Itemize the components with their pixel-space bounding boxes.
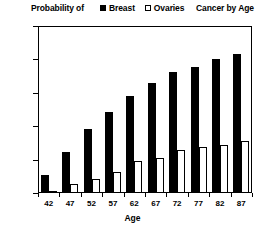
legend-label-breast: Breast [109, 3, 135, 13]
chart-legend: Breast Ovaries [100, 3, 184, 13]
x-tick-mark [124, 193, 125, 197]
bar-ovaries-77 [199, 147, 207, 193]
x-tick-mark [59, 193, 60, 197]
bar-ovaries-52 [92, 179, 100, 193]
x-tick-mark [102, 193, 103, 197]
chart-title-right: Cancer by Age [196, 3, 254, 13]
x-tick-label: 67 [145, 199, 167, 208]
bar-ovaries-62 [134, 161, 142, 193]
x-tick-label: 52 [81, 199, 103, 208]
x-tick-mark [252, 193, 253, 197]
bar-ovaries-42 [49, 191, 57, 193]
bar-ovaries-57 [113, 172, 121, 193]
bar-breast-52 [84, 129, 92, 193]
legend-item-breast: Breast [100, 3, 135, 13]
x-tick-label: 72 [166, 199, 188, 208]
x-tick-label: 62 [123, 199, 145, 208]
bar-ovaries-72 [177, 150, 185, 193]
bar-ovaries-87 [241, 141, 249, 193]
legend-item-ovaries: Ovaries [145, 3, 185, 13]
bar-breast-57 [105, 112, 113, 193]
x-tick-label: 77 [188, 199, 210, 208]
bar-breast-67 [148, 83, 156, 193]
bar-ovaries-47 [70, 184, 78, 193]
x-tick-mark [81, 193, 82, 197]
x-tick-mark [145, 193, 146, 197]
bar-breast-42 [41, 175, 49, 193]
bar-ovaries-67 [156, 158, 164, 193]
x-tick-mark [231, 193, 232, 197]
x-axis-title: Age [0, 213, 265, 223]
x-tick-label: 42 [38, 199, 60, 208]
cancer-probability-bar-chart: Probability of Breast Ovaries Cancer by … [0, 0, 265, 236]
legend-label-ovaries: Ovaries [154, 3, 185, 13]
chart-title-left: Probability of [31, 3, 84, 13]
x-tick-label: 47 [59, 199, 81, 208]
x-tick-mark [38, 193, 39, 197]
legend-swatch-filled-square-icon [100, 5, 106, 11]
bar-breast-87 [233, 54, 241, 193]
chart-header: Probability of Breast Ovaries Cancer by … [0, 0, 265, 20]
x-tick-label: 82 [209, 199, 231, 208]
bar-breast-82 [212, 59, 220, 193]
bar-breast-72 [169, 72, 177, 193]
plot-area [38, 26, 252, 193]
x-tick-mark [209, 193, 210, 197]
bar-ovaries-82 [220, 145, 228, 193]
x-tick-mark [188, 193, 189, 197]
bar-breast-77 [191, 67, 199, 193]
bar-breast-62 [126, 96, 134, 193]
x-tick-label: 57 [102, 199, 124, 208]
x-tick-mark [166, 193, 167, 197]
x-tick-label: 87 [230, 199, 252, 208]
bar-breast-47 [62, 152, 70, 193]
legend-swatch-open-square-icon [145, 5, 151, 11]
